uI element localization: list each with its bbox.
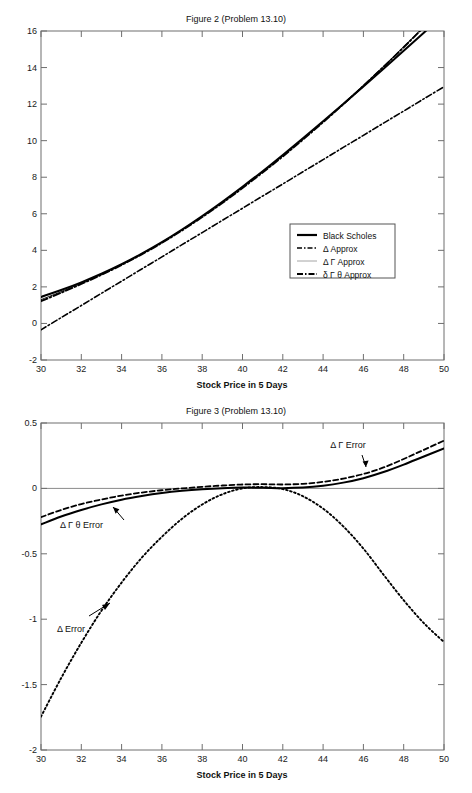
figure-3-xaxis-title: Stock Price in 5 Days [196,770,287,780]
legend-label-delta-gamma-approx: Δ Γ Approx [323,257,365,267]
figure-2-title: Figure 2 (Problem 13.10) [186,14,286,24]
x-tick-label: 40 [237,364,247,374]
y-tick-label: -2 [29,355,37,365]
figure-2-svg: Figure 2 (Problem 13.10) [0,0,472,400]
y-tick-label: 12 [27,99,37,109]
y-tick-label: -0.5 [21,549,37,559]
x-tick-label: 42 [278,754,288,764]
figure-2-y-ticklabels: -2 0 2 4 6 8 10 12 14 16 [27,26,37,365]
y-tick-label: -1.5 [21,680,37,690]
figure-2-container: Figure 2 (Problem 13.10) [0,0,472,400]
figure-3-container: Figure 3 (Problem 13.10) [0,400,472,793]
y-tick-label: 0 [32,318,37,328]
x-tick-label: 38 [197,754,207,764]
annotation-label-delta-gamma-error: Δ Γ Error [330,440,365,450]
y-tick-label: -2 [29,745,37,755]
y-tick-label: 0 [32,483,37,493]
y-tick-label: 8 [32,172,37,182]
figure-3-x-ticklabels: 30 32 34 36 38 40 42 44 46 48 50 [36,754,449,764]
legend-label-black-scholes: Black Scholes [323,231,376,241]
y-tick-label: 14 [27,63,37,73]
x-tick-label: 42 [278,364,288,374]
figure-2-x-ticklabels: 30 32 34 36 38 40 42 44 46 48 50 [36,364,449,374]
figure-3-title: Figure 3 (Problem 13.10) [186,406,286,416]
x-tick-label: 30 [36,364,46,374]
x-tick-label: 50 [439,364,449,374]
y-tick-label: 6 [32,209,37,219]
figure-2-xaxis-title: Stock Price in 5 Days [196,380,287,390]
x-tick-label: 44 [318,364,328,374]
figure-3-svg: Figure 3 (Problem 13.10) [0,400,472,793]
x-tick-label: 30 [36,754,46,764]
x-tick-label: 32 [76,364,86,374]
legend-label-delta-approx: Δ Approx [323,244,358,254]
x-tick-label: 38 [197,364,207,374]
x-tick-label: 44 [318,754,328,764]
x-tick-label: 40 [237,754,247,764]
legend-label-delta-gamma-theta-approx: δ Γ θ Approx [323,270,372,280]
y-tick-label: 10 [27,136,37,146]
y-tick-label: 0.5 [24,418,37,428]
y-tick-label: 16 [27,26,37,36]
annotation-label-delta-gamma-theta-error: Δ Γ θ Error [60,520,103,530]
x-tick-label: 48 [399,754,409,764]
annotation-label-delta-error: Δ Error [57,624,85,634]
y-tick-label: 2 [32,282,37,292]
x-tick-label: 48 [399,364,409,374]
x-tick-label: 36 [157,364,167,374]
y-tick-label: 4 [32,245,37,255]
x-tick-label: 34 [117,364,127,374]
x-tick-label: 46 [358,364,368,374]
x-tick-label: 36 [157,754,167,764]
figure-3-y-ticklabels: -2 -1.5 -1 -0.5 0 0.5 [21,418,37,755]
x-tick-label: 34 [117,754,127,764]
figure-2-legend: Black Scholes Δ Approx Δ Γ Approx δ Γ θ … [290,224,395,280]
y-tick-label: -1 [29,614,37,624]
figure-2-plot-frame [41,31,444,360]
x-tick-label: 46 [358,754,368,764]
x-tick-label: 32 [76,754,86,764]
x-tick-label: 50 [439,754,449,764]
